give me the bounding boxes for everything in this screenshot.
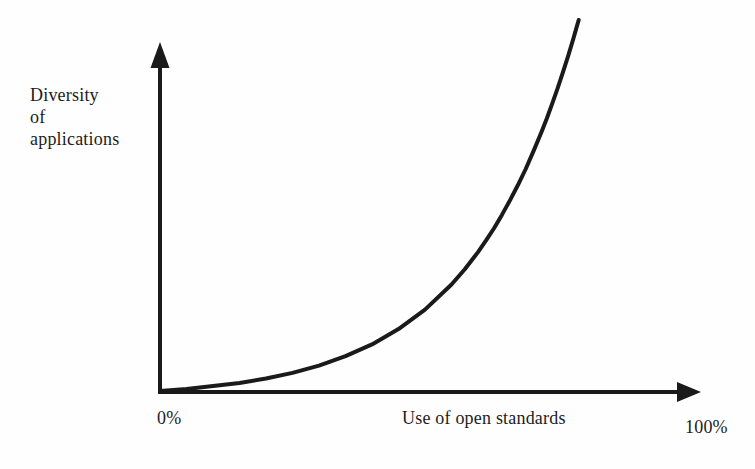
plot-svg xyxy=(0,0,755,469)
y-axis-arrowhead xyxy=(151,42,170,68)
x-axis-arrowhead xyxy=(677,382,701,402)
y-axis-label: Diversity of applications xyxy=(30,84,119,150)
x-axis-tick-0: 0% xyxy=(157,408,181,429)
x-axis-tick-100: 100% xyxy=(685,417,728,438)
x-axis-label: Use of open standards xyxy=(402,408,566,429)
exponential-curve xyxy=(160,20,579,391)
figure: Diversity of applications 0% Use of open… xyxy=(0,0,755,469)
